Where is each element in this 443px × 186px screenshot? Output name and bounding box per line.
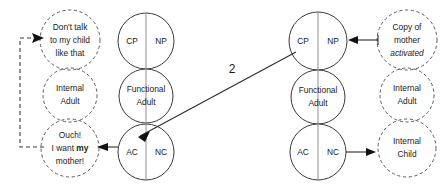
right-internal-parent-line2: mother	[394, 35, 420, 45]
right-np-label: NP	[327, 36, 339, 46]
right-internal-adult-line2: Adult	[397, 96, 417, 106]
left-ac-to-internal-child-arrow	[97, 143, 118, 151]
right-nc-to-internal-child-arrow	[346, 148, 376, 156]
right-functional-adult-line2: Adult	[308, 98, 328, 108]
right-internal-parent-to-np-arrow	[348, 35, 378, 45]
right-internal-child-circle	[378, 119, 436, 177]
left-internal-feedback-path	[20, 38, 44, 147]
left-functional-adult-line1: Functional	[127, 84, 166, 94]
left-internal-adult-circle	[43, 68, 97, 122]
right-ac-label: AC	[297, 147, 309, 157]
left-internal-adult-line2: Adult	[60, 96, 80, 106]
left-internal-parent-line2: to my child	[50, 35, 90, 45]
right-internal-parent-to-np-arrowhead	[348, 36, 358, 44]
left-nc-label: NC	[155, 147, 167, 157]
left-np-label: NP	[155, 36, 167, 46]
right-functional-adult-line1: Functional	[299, 85, 338, 95]
left-internal-parent-line1: Don't talk	[53, 22, 88, 32]
left-ac-label: AC	[126, 147, 138, 157]
transaction-number-label: 2	[229, 62, 236, 76]
left-internal-feedback-arrowhead	[32, 33, 44, 43]
ta-transaction-diagram: Don't talk to my child like that Interna…	[0, 0, 443, 186]
right-dashed-stack: Copy of mother activated Internal Adult …	[377, 10, 437, 177]
right-nc-to-internal-child-arrowhead	[366, 148, 376, 156]
left-internal-child-line2: I want my	[52, 143, 89, 153]
left-internal-parent-line3: like that	[56, 48, 86, 58]
left-solid-stack: CP NP Functional Adult AC NC	[118, 13, 174, 180]
left-internal-child-line2-bold: my	[76, 143, 88, 153]
left-internal-child-line3: mother!	[56, 156, 84, 166]
right-internal-parent-line3: activated	[390, 48, 424, 58]
right-internal-adult-line1: Internal	[393, 83, 421, 93]
right-internal-child-line1: Internal	[393, 136, 421, 146]
left-cp-label: CP	[126, 36, 138, 46]
right-internal-child-line2: Child	[397, 149, 416, 159]
diagram-canvas: Don't talk to my child like that Interna…	[0, 0, 443, 186]
right-nc-label: NC	[327, 147, 339, 157]
left-dashed-stack: Don't talk to my child like that Interna…	[40, 10, 100, 177]
right-internal-parent-line1: Copy of	[393, 22, 423, 32]
left-internal-child-line1: Ouch!	[59, 130, 81, 140]
left-internal-feedback-dashed-arrow	[20, 33, 44, 147]
right-solid-stack: CP NP Functional Adult AC NC	[289, 12, 347, 180]
left-functional-adult-line2: Adult	[136, 97, 156, 107]
right-internal-adult-circle	[380, 68, 434, 122]
left-internal-child-line2-pre: I want	[52, 143, 77, 153]
left-internal-adult-line1: Internal	[56, 83, 84, 93]
right-cp-label: CP	[297, 36, 309, 46]
